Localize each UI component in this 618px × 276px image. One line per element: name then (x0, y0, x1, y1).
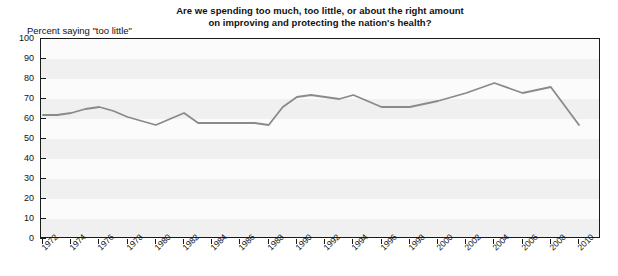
y-axis-tick (41, 118, 46, 119)
y-axis-tick (41, 178, 46, 179)
chart-title-line-2: on improving and protecting the nation's… (150, 17, 490, 29)
series-line (43, 83, 579, 125)
y-axis-tick (41, 38, 46, 39)
y-axis-tick (41, 98, 46, 99)
y-axis-tick-label: 80 (8, 74, 34, 83)
line-chart: Are we spending too much, too little, or… (0, 0, 618, 276)
y-axis-tick-label: 0 (8, 234, 34, 243)
y-axis-tick-label: 30 (8, 174, 34, 183)
y-axis-tick-label: 20 (8, 194, 34, 203)
y-axis-label: Percent saying "too little" (27, 25, 132, 36)
chart-title: Are we spending too much, too little, or… (150, 5, 490, 29)
y-axis-tick-label: 90 (8, 54, 34, 63)
y-axis-tick-label: 40 (8, 154, 34, 163)
y-axis-tick-label: 70 (8, 94, 34, 103)
y-axis-tick (41, 198, 46, 199)
plot-area (40, 38, 600, 238)
y-axis-tick-label: 60 (8, 114, 34, 123)
y-axis-tick (41, 218, 46, 219)
y-axis-tick (41, 58, 46, 59)
y-axis-tick-label: 100 (8, 34, 34, 43)
chart-title-line-1: Are we spending too much, too little, or… (150, 5, 490, 17)
data-line-series (41, 39, 600, 238)
y-axis-tick (41, 138, 46, 139)
y-axis-tick-label: 50 (8, 134, 34, 143)
y-axis-tick (41, 78, 46, 79)
y-axis-tick-label: 10 (8, 214, 34, 223)
y-axis-tick (41, 158, 46, 159)
